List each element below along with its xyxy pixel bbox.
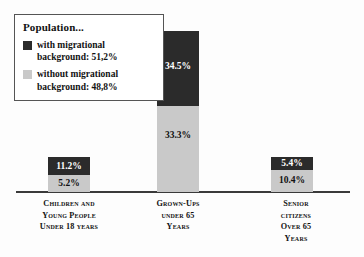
bar-children-label-without: 5.2% (48, 179, 90, 189)
category-seniors-line2: citizens (237, 210, 355, 222)
light-swatch-icon (23, 70, 32, 79)
legend-without-line1: without migrational (37, 69, 118, 79)
category-grownups-line3: Years (123, 221, 233, 233)
legend-with-line2: background: 51,2% (37, 52, 118, 62)
category-children-line1: Children and (9, 198, 129, 210)
bar-children-label-with: 11.2% (48, 162, 90, 172)
legend-item-without-label: without migrational background: 48,8% (37, 68, 118, 92)
legend-item-with[interactable]: with migrational background: 51,2% (23, 39, 156, 63)
bar-seniors-label-with: 5.4% (271, 159, 313, 169)
chart-canvas: 11.2% 5.2% 34.5% 33.3% 5.4% 10.4% (0, 0, 364, 257)
category-labels: Children and Young People Under 18 years… (0, 196, 364, 254)
legend: Population... with migrational backgroun… (14, 14, 164, 101)
bar-seniors[interactable]: 5.4% 10.4% (271, 157, 313, 192)
legend-item-without[interactable]: without migrational background: 48,8% (23, 68, 156, 92)
category-label-seniors: Senior citizens Over 65 Years (237, 198, 355, 245)
legend-with-line1: with migrational (37, 40, 105, 50)
bar-seniors-segment-with[interactable]: 5.4% (271, 157, 313, 170)
category-grownups-line2: under 65 (123, 210, 233, 222)
bar-children[interactable]: 11.2% 5.2% (48, 157, 90, 192)
category-seniors-line1: Senior (237, 198, 355, 210)
category-children-line3: Under 18 years (9, 221, 129, 233)
legend-title: Population... (23, 21, 156, 33)
category-seniors-line3: Over 65 (237, 221, 355, 233)
category-grownups-line1: Grown-Ups (123, 198, 233, 210)
bar-seniors-segment-without[interactable]: 10.4% (271, 170, 313, 192)
legend-without-line2: background: 48,8% (37, 82, 118, 92)
bar-children-segment-without[interactable]: 5.2% (48, 175, 90, 192)
category-label-grownups: Grown-Ups under 65 Years (123, 198, 233, 233)
category-label-children: Children and Young People Under 18 years (9, 198, 129, 233)
bar-grownups-label-without: 33.3% (157, 131, 199, 141)
bar-children-segment-with[interactable]: 11.2% (48, 157, 90, 175)
bar-seniors-label-without: 10.4% (271, 176, 313, 186)
dark-swatch-icon (23, 41, 32, 50)
category-seniors-line4: Years (237, 233, 355, 245)
bar-grownups-segment-without[interactable]: 33.3% (157, 106, 199, 192)
category-children-line2: Young People (9, 210, 129, 222)
legend-item-with-label: with migrational background: 51,2% (37, 39, 118, 63)
